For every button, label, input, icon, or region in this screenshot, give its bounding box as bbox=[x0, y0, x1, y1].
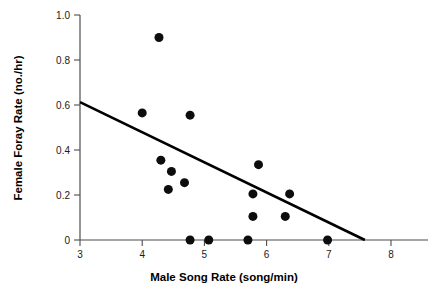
x-tick-labels: 3 4 5 6 7 8 bbox=[77, 249, 394, 260]
scatter-plot-figure: 1.0 0.8 0.6 0.4 0.2 0 Female Foray Rate … bbox=[0, 0, 447, 297]
x-tick-label-5: 8 bbox=[388, 249, 394, 260]
data-point bbox=[138, 108, 147, 117]
data-point bbox=[248, 189, 257, 198]
data-point bbox=[254, 160, 263, 169]
data-point bbox=[281, 212, 290, 221]
y-axis-ticks bbox=[74, 15, 80, 240]
x-tick-label-4: 7 bbox=[326, 249, 332, 260]
y-axis-title: Female Foray Rate (no./hr) bbox=[12, 55, 24, 200]
data-point bbox=[156, 156, 165, 165]
data-points-layer bbox=[138, 33, 332, 245]
x-axis-title: Male Song Rate (song/min) bbox=[150, 271, 298, 283]
data-point bbox=[167, 167, 176, 176]
data-point bbox=[204, 236, 213, 245]
y-tick-label-2: 0.4 bbox=[56, 145, 70, 156]
y-tick-label-4: 0.8 bbox=[56, 55, 70, 66]
y-tick-label-5: 1.0 bbox=[56, 10, 70, 21]
regression-trendline bbox=[80, 102, 365, 240]
x-tick-label-2: 5 bbox=[202, 249, 208, 260]
y-tick-label-1: 0.2 bbox=[56, 190, 70, 201]
plot-canvas: 1.0 0.8 0.6 0.4 0.2 0 Female Foray Rate … bbox=[0, 0, 447, 297]
data-point bbox=[154, 33, 163, 42]
y-tick-label-3: 0.6 bbox=[56, 100, 70, 111]
y-axis-group: 1.0 0.8 0.6 0.4 0.2 0 Female Foray Rate … bbox=[12, 10, 80, 246]
x-tick-label-3: 6 bbox=[264, 249, 270, 260]
x-axis-ticks bbox=[80, 240, 391, 246]
data-point bbox=[323, 236, 332, 245]
data-point bbox=[180, 178, 189, 187]
y-tick-label-0: 0 bbox=[64, 235, 70, 246]
data-point bbox=[164, 185, 173, 194]
y-tick-labels: 1.0 0.8 0.6 0.4 0.2 0 bbox=[56, 10, 70, 246]
data-point bbox=[243, 236, 252, 245]
x-tick-label-0: 3 bbox=[77, 249, 83, 260]
data-point bbox=[186, 111, 195, 120]
data-point bbox=[285, 189, 294, 198]
x-tick-label-1: 4 bbox=[139, 249, 145, 260]
data-point bbox=[248, 212, 257, 221]
x-axis-group: 3 4 5 6 7 8 Male Song Rate (song/min) bbox=[77, 240, 428, 283]
data-point bbox=[186, 236, 195, 245]
